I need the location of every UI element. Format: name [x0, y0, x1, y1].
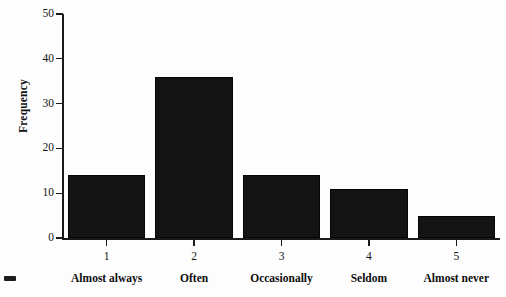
y-axis-line [62, 14, 64, 239]
y-axis-tick-label-wrap: 30 [0, 97, 54, 111]
y-axis-tick-label-wrap: 40 [0, 52, 54, 66]
x-axis-tick-mark [368, 239, 369, 246]
scan-artifact-mark [4, 276, 16, 281]
x-axis-tick-label: 3 [262, 250, 302, 262]
y-axis-tick-label-wrap: 10 [0, 186, 54, 200]
y-axis-tick-label: 20 [28, 141, 54, 153]
y-axis-tick-mark [56, 237, 63, 238]
y-axis-tick-mark [56, 103, 63, 104]
bar [243, 175, 320, 238]
bar [418, 216, 495, 238]
x-axis-tick-label: 4 [349, 250, 389, 262]
x-axis-tick-mark [106, 239, 107, 246]
y-axis-tick-label: 50 [28, 7, 54, 19]
y-axis-tick-label: 40 [28, 52, 54, 64]
bar [330, 189, 407, 238]
y-axis-tick-label-wrap: 50 [0, 7, 54, 21]
x-axis-tick-label: 2 [174, 250, 214, 262]
x-axis-tick-mark [281, 239, 282, 246]
y-axis-tick-mark [56, 58, 63, 59]
bar-chart-figure: Frequency 01020304050 1Almost always2Oft… [0, 0, 506, 297]
y-axis-tick-mark [56, 148, 63, 149]
x-axis-tick-label: 5 [436, 250, 476, 262]
y-axis-tick-label-wrap: 0 [0, 231, 54, 245]
y-axis-tick-label: 0 [28, 231, 54, 243]
y-axis-tick-label: 30 [28, 97, 54, 109]
x-axis-category-label: Almost never [391, 272, 506, 284]
y-axis-tick-label-wrap: 20 [0, 141, 54, 155]
y-axis-tick-label: 10 [28, 186, 54, 198]
x-axis-tick-label: 1 [87, 250, 127, 262]
x-axis-tick-mark [193, 239, 194, 246]
x-axis-tick-mark [456, 239, 457, 246]
y-axis-tick-mark [56, 13, 63, 14]
y-axis-tick-mark [56, 193, 63, 194]
bar [155, 77, 232, 238]
bar [68, 175, 145, 238]
